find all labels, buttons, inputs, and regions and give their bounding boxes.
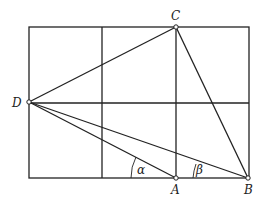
label-A: A [170, 183, 180, 197]
grid [29, 27, 249, 178]
point-B [246, 176, 250, 180]
point-A [174, 176, 178, 180]
point-D [27, 100, 31, 104]
label-beta: β [195, 163, 203, 177]
point-C [174, 25, 178, 29]
angle-arc-alpha [131, 157, 136, 178]
label-alpha: α [137, 163, 145, 177]
label-C: C [171, 9, 180, 23]
geometry-diagram: D C A B α β [0, 0, 264, 205]
label-D: D [11, 96, 22, 110]
label-B: B [243, 183, 253, 197]
